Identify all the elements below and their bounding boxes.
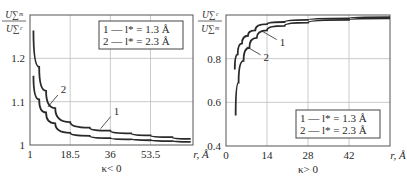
y-tick-label: 0.8 xyxy=(207,53,221,65)
x-tick-label: 14 xyxy=(262,149,274,161)
x-tick-label: 0 xyxy=(223,149,229,161)
y-tick-label: 0.4 xyxy=(207,140,221,152)
curve-label-2: 2 xyxy=(264,51,270,63)
annotation-leader xyxy=(263,32,277,40)
legend-entry-2: 2 — l* = 2.3 Å xyxy=(103,35,170,47)
annotation-leader xyxy=(48,95,58,107)
chart-panel-left: 118.53653.511.11.2r, Åκ< 0U∑ᵐU∑ᶜ121 — l*… xyxy=(2,10,209,174)
y-tick-label: 1.2 xyxy=(11,52,25,64)
y-label-denominator: U∑ᶜ xyxy=(6,24,24,34)
curve-label-1: 1 xyxy=(280,36,286,48)
annotation-leader xyxy=(247,47,261,55)
x-tick-label: 18.5 xyxy=(61,148,81,160)
y-label-numerator: U∑ᵐ xyxy=(5,10,24,20)
legend-entry-1: 1 — l* = 1.3 Å xyxy=(300,112,367,124)
curve-label-1: 1 xyxy=(114,105,120,117)
curve-label-2: 2 xyxy=(61,83,67,95)
legend-entry-1: 1 — l* = 1.3 Å xyxy=(103,23,170,35)
chart-panel-right: 01428420.40.60.8r, Åκ> 0U∑ᶜU∑ᵐ121 — l* =… xyxy=(198,10,406,175)
condition-subtitle: κ< 0 xyxy=(102,162,122,174)
x-tick-label: 42 xyxy=(344,149,355,161)
x-tick-label: 53.5 xyxy=(141,148,161,160)
y-tick-label: 1 xyxy=(20,139,26,151)
y-label-denominator: U∑ᵐ xyxy=(201,24,220,34)
y-label-numerator: U∑ᶜ xyxy=(202,10,220,20)
curve-series-1 xyxy=(235,17,390,69)
y-tick-label: 0.6 xyxy=(207,96,221,108)
x-axis-label: r, Å xyxy=(390,149,406,161)
y-tick-label: 1.1 xyxy=(11,96,25,108)
chart-figure: 118.53653.511.11.2r, Åκ< 0U∑ᵐU∑ᶜ121 — l*… xyxy=(0,0,407,178)
curve-series-2 xyxy=(236,18,390,115)
annotation-leader xyxy=(101,117,111,129)
condition-subtitle: κ> 0 xyxy=(298,163,318,175)
legend-entry-2: 2 — l* = 2.3 Å xyxy=(300,124,367,136)
x-tick-label: 28 xyxy=(303,149,315,161)
x-tick-label: 1 xyxy=(27,148,33,160)
x-tick-label: 36 xyxy=(105,148,117,160)
